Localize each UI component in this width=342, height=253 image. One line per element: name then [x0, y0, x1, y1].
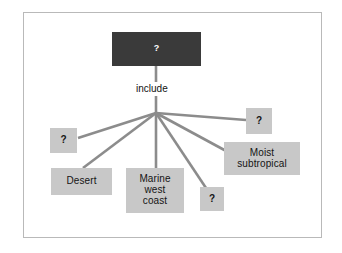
node-unknown-left[interactable]: ?: [50, 128, 77, 153]
edge-label-include: include: [134, 84, 170, 94]
node-desert[interactable]: Desert: [51, 168, 112, 195]
root-node[interactable]: ?: [112, 32, 201, 66]
diagram-canvas: ? include ? Desert Marine west coast ? M…: [0, 0, 342, 253]
node-unknown-bottom[interactable]: ?: [200, 187, 224, 211]
node-moist-subtropical[interactable]: Moist subtropical: [224, 142, 300, 175]
node-marine-west-coast[interactable]: Marine west coast: [126, 168, 184, 213]
node-unknown-top-right[interactable]: ?: [246, 108, 272, 134]
